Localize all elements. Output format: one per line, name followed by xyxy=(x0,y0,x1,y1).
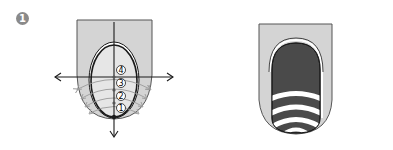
step-number-badge: 1 xyxy=(16,12,29,25)
nail-guide-diagram: 4 3 2 1 xyxy=(0,0,196,150)
marker-1: 1 xyxy=(118,104,123,113)
nail-guide-panel: 1 xyxy=(0,0,196,150)
marker-2: 2 xyxy=(118,92,123,101)
finished-nail-diagram xyxy=(196,0,393,150)
finished-nail-panel xyxy=(196,0,393,150)
marker-4: 4 xyxy=(118,66,123,75)
start-point xyxy=(112,115,116,119)
marker-3: 3 xyxy=(118,79,123,88)
